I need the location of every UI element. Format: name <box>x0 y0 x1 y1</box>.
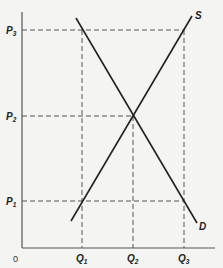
p3-label: P3 <box>6 25 17 37</box>
origin-label: 0 <box>13 254 18 264</box>
q2-label: Q2 <box>127 253 139 265</box>
q1-label: Q1 <box>76 253 88 265</box>
demand-curve <box>76 18 197 223</box>
supply-curve <box>71 16 192 221</box>
demand-label: D <box>199 221 206 232</box>
p2-label: P2 <box>6 111 17 123</box>
q3-label: Q3 <box>178 253 190 265</box>
p1-label: P1 <box>6 196 17 208</box>
supply-demand-diagram: S D P3 P2 P1 0 Q1 Q2 Q3 <box>0 0 223 268</box>
supply-label: S <box>195 10 202 21</box>
